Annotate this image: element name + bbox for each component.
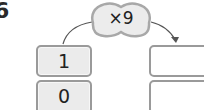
- arc-left: [63, 22, 92, 44]
- operation-label: ×9: [90, 6, 152, 30]
- output-box-2[interactable]: [149, 80, 204, 110]
- input-box-1: 1: [36, 45, 92, 77]
- input-box-2: 0: [36, 80, 92, 110]
- arrowhead-icon: [171, 37, 179, 43]
- output-box-1[interactable]: [149, 45, 204, 77]
